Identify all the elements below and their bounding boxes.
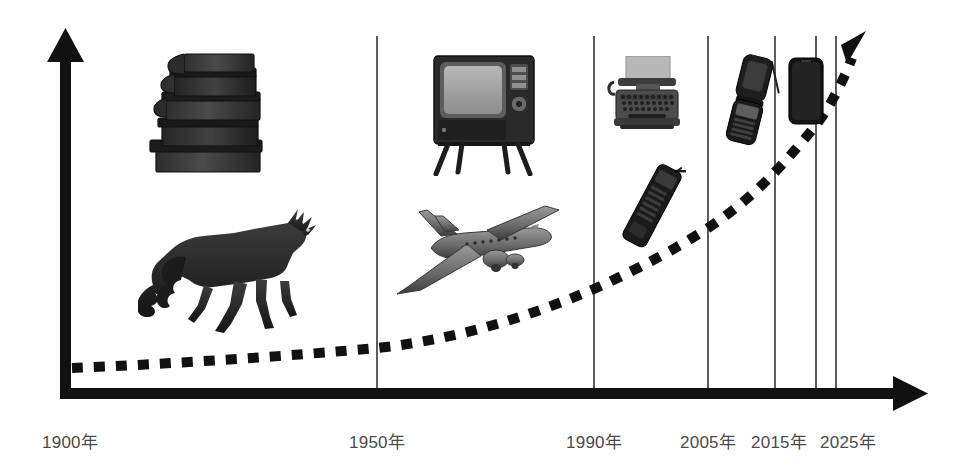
airplane-icon (395, 196, 571, 304)
horse-icon (138, 205, 320, 333)
axis-label-2015: 2015年 (751, 428, 807, 453)
typewriter-icon (606, 56, 688, 134)
television-icon (428, 54, 540, 176)
axis-label-1900: 1900年 (42, 428, 98, 453)
brick-phone-icon (618, 158, 686, 258)
axis-label-1950: 1950年 (349, 428, 405, 453)
progress-axis (47, 28, 84, 399)
axis-label-2005: 2005年 (680, 428, 736, 453)
flip-phone-icon (720, 52, 782, 148)
timeline-infographic: 1900年 1950年 1990年 2005年 2015年 2025年 (0, 0, 964, 470)
axis-label-1990: 1990年 (566, 428, 622, 453)
smartphone-icon (786, 56, 826, 126)
books-stack-icon (136, 44, 264, 180)
axis-label-2025: 2025年 (820, 428, 876, 453)
time-axis (60, 376, 928, 411)
